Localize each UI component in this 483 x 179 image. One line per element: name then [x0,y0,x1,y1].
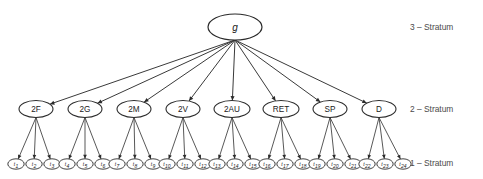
edge-D-to-t22 [368,118,379,159]
root-node-g[interactable]: g [208,14,262,40]
node-label-t16: t16 [263,161,270,169]
stratum1-node-t22[interactable]: t22 [359,159,375,169]
stratum1-node-t17[interactable]: t17 [277,159,293,169]
stratum2-node-D[interactable]: D [362,101,396,118]
root-node-group: g [208,14,262,40]
stratum1-node-t23[interactable]: t23 [377,159,393,169]
stratum-label-group: 3 – Stratum2 – Stratum1 – Stratum [410,22,453,168]
edge-g-to-2F [50,40,235,105]
edge-g-to-2AU [231,40,235,101]
node-label-t20: t20 [331,161,338,169]
edge-2F-to-t3 [36,118,51,159]
root-to-stratum2-edges [50,40,367,105]
node-label-t11: t11 [182,161,189,169]
edge-SP-to-t21 [330,118,351,160]
edge-g-to-2V [189,40,235,101]
node-label-2AU: 2AU [224,105,240,114]
stratum2-node-2F[interactable]: 2F [19,101,53,118]
stratum1-node-group: t1t2t3t4t5t6t7t8t9t10t11t12t13t14t15t16t… [8,159,411,169]
edge-2AU-to-t13 [218,118,232,159]
node-label-t13: t13 [213,161,220,169]
stratum2-node-2AU[interactable]: 2AU [214,101,250,118]
node-label-t21: t21 [349,161,356,169]
stratum1-node-t13[interactable]: t13 [209,159,225,169]
node-label-2F: 2F [31,105,41,114]
stratum-label-stratum-3: 3 – Stratum [410,22,453,32]
stratum1-node-t4[interactable]: t4 [59,159,75,169]
node-label-g: g [232,22,238,33]
stratum1-node-t2[interactable]: t2 [26,159,42,169]
diagram-canvas: t1t2t3t4t5t6t7t8t9t10t11t12t13t14t15t16t… [0,0,483,179]
node-label-2V: 2V [178,105,189,114]
node-label-t19: t19 [313,161,320,169]
node-label-t10: t10 [163,161,170,169]
stratum1-node-t1[interactable]: t1 [8,159,24,169]
stratum1-node-t10[interactable]: t10 [159,159,175,169]
stratum-label-stratum-2: 2 – Stratum [410,104,453,114]
stratum2-node-SP[interactable]: SP [313,101,347,118]
node-label-t18: t18 [299,161,306,169]
stratum1-node-t14[interactable]: t14 [227,159,243,169]
edge-g-to-SP [235,40,320,102]
node-label-t24: t24 [399,161,406,169]
stratum2-node-RET[interactable]: RET [263,101,299,118]
node-label-t15: t15 [249,161,256,169]
node-label-2M: 2M [128,105,140,114]
edge-2M-to-t9 [134,118,151,159]
stratum1-node-t8[interactable]: t8 [127,159,143,169]
node-label-2G: 2G [80,105,91,114]
stratum1-node-t3[interactable]: t3 [44,159,60,169]
edge-2V-to-t12 [183,118,201,159]
node-label-t14: t14 [231,161,238,169]
edge-2G-to-t6 [85,118,101,159]
stratum1-node-t16[interactable]: t16 [259,159,275,169]
stratum1-node-t7[interactable]: t7 [109,159,125,169]
node-label-D: D [376,105,382,114]
stratum2-node-2M[interactable]: 2M [117,101,151,118]
edge-2M-to-t7 [118,118,134,159]
edge-2AU-to-t15 [232,118,251,160]
edge-RET-to-t16 [268,118,281,159]
stratum2-node-2V[interactable]: 2V [166,101,200,118]
edge-g-to-2M [144,40,235,102]
node-label-t12: t12 [199,161,206,169]
node-label-t17: t17 [281,161,288,169]
stratum2-to-stratum1-edges [18,118,400,160]
node-label-SP: SP [325,105,336,114]
node-label-t23: t23 [381,161,388,169]
stratum1-node-t20[interactable]: t20 [327,159,343,169]
stratum1-node-t11[interactable]: t11 [177,159,193,169]
edge-2G-to-t5 [83,118,87,159]
node-label-t22: t22 [363,161,370,169]
stratum2-node-group: 2F2G2M2V2AURETSPD [19,101,396,118]
hierarchical-factor-diagram: t1t2t3t4t5t6t7t8t9t10t11t12t13t14t15t16t… [0,0,483,179]
stratum2-node-2G[interactable]: 2G [68,101,102,118]
edge-g-to-D [235,40,367,103]
edge-2AU-to-t14 [232,118,236,159]
node-label-RET: RET [273,105,289,114]
edge-SP-to-t19 [318,118,330,159]
edge-g-to-2G [98,40,235,103]
edge-2G-to-t4 [69,118,85,159]
edge-g-to-RET [235,40,276,101]
stratum1-node-t19[interactable]: t19 [309,159,325,169]
stratum-label-stratum-1: 1 – Stratum [410,158,453,168]
stratum1-node-t24[interactable]: t24 [395,159,411,169]
edge-2V-to-t10 [168,118,183,159]
edge-D-to-t24 [379,118,400,160]
edge-2F-to-t1 [18,118,36,159]
stratum1-node-t5[interactable]: t5 [77,159,93,169]
